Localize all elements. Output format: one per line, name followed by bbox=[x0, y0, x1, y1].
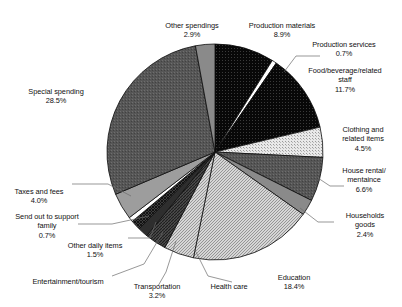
label-pct-food-beverage: 11.7% bbox=[290, 85, 400, 94]
label-text-households-goods: Households goods bbox=[346, 211, 385, 229]
label-text-clothing: Clothing and related items bbox=[342, 125, 384, 143]
label-text-entertainment: Entertainment/tourism bbox=[32, 277, 103, 286]
label-text-food-beverage: Food/beverage/related staff bbox=[308, 66, 381, 84]
slice-label-house-rental: House rental/ mentaince 6.6% bbox=[328, 157, 400, 203]
slice-label-households-goods: Households goods 2.4% bbox=[330, 202, 400, 248]
label-pct-special-spending: 28.5% bbox=[10, 96, 102, 105]
label-text-send-out: Send out to support family bbox=[15, 212, 79, 230]
label-pct-other-daily-items: 1.5% bbox=[54, 250, 136, 259]
label-text-production-materials: Production materials bbox=[249, 21, 315, 30]
label-pct-education: 18.4% bbox=[260, 282, 328, 291]
slice-label-other-spendings: Other spendings 2.9% bbox=[148, 12, 236, 49]
label-pct-other-spendings: 2.9% bbox=[148, 30, 236, 39]
label-pct-clothing: 4.5% bbox=[326, 144, 400, 153]
slice-label-food-beverage: Food/beverage/related staff 11.7% bbox=[290, 57, 400, 103]
label-text-house-rental: House rental/ mentaince bbox=[342, 166, 385, 184]
slice-label-education: Education 18.4% bbox=[260, 264, 328, 301]
slice-label-taxes-and-fees: Taxes and fees 4.0% bbox=[4, 178, 74, 215]
label-pct-households-goods: 2.4% bbox=[330, 230, 400, 239]
label-text-production-services: Production services bbox=[312, 40, 376, 49]
slice-label-special-spending: Special spending 28.5% bbox=[10, 78, 102, 115]
slice-label-clothing: Clothing and related items 4.5% bbox=[326, 116, 400, 162]
label-text-taxes-and-fees: Taxes and fees bbox=[14, 187, 63, 196]
label-text-other-spendings: Other spendings bbox=[165, 21, 218, 30]
label-text-transportation: Transportation bbox=[134, 282, 181, 291]
label-pct-house-rental: 6.6% bbox=[328, 185, 400, 194]
slice-label-transportation: Transportation 3.2% bbox=[118, 273, 196, 307]
label-text-special-spending: Special spending bbox=[28, 87, 84, 96]
label-pct-send-out: 0.7% bbox=[4, 231, 90, 240]
label-pct-transportation: 3.2% bbox=[118, 291, 196, 300]
slice-label-health-care: Health care bbox=[196, 273, 262, 301]
label-text-health-care: Health care bbox=[210, 282, 247, 291]
slice-label-entertainment: Entertainment/tourism bbox=[16, 268, 120, 296]
label-pct-taxes-and-fees: 4.0% bbox=[4, 196, 74, 205]
label-text-education: Education bbox=[278, 273, 310, 282]
pie-chart-figure: Other spendings 2.9% Production material… bbox=[0, 0, 402, 307]
